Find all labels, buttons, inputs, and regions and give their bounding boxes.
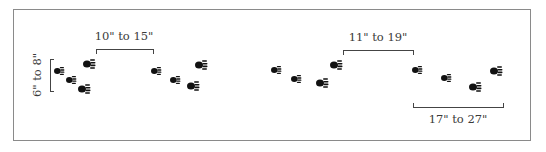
footprint-icon bbox=[329, 59, 343, 71]
gap-left-label: 10" to 15" bbox=[95, 31, 154, 43]
footprint-icon bbox=[77, 83, 91, 95]
gap-right-bracket bbox=[343, 50, 414, 55]
footprint-icon bbox=[440, 73, 452, 83]
footprint-icon bbox=[270, 65, 282, 75]
footprint-icon bbox=[194, 59, 208, 71]
footprint-icon bbox=[169, 75, 181, 85]
footprint-icon bbox=[53, 66, 65, 76]
stride-bracket bbox=[413, 103, 504, 108]
gap-right-label: 11" to 19" bbox=[349, 32, 408, 44]
footprint-icon bbox=[150, 66, 162, 76]
footprint-icon bbox=[82, 58, 96, 70]
footprint-icon bbox=[290, 74, 302, 84]
gap-left-bracket bbox=[96, 49, 154, 54]
footprint-icon bbox=[186, 80, 200, 92]
stride-label: 17" to 27" bbox=[429, 114, 488, 126]
footprint-icon bbox=[489, 65, 503, 77]
footprint-icon bbox=[315, 77, 329, 89]
footprint-icon bbox=[65, 75, 77, 85]
footprint-icon bbox=[468, 81, 482, 93]
footprint-icon bbox=[411, 65, 423, 75]
group-width-label: 6" to 8" bbox=[32, 53, 44, 97]
